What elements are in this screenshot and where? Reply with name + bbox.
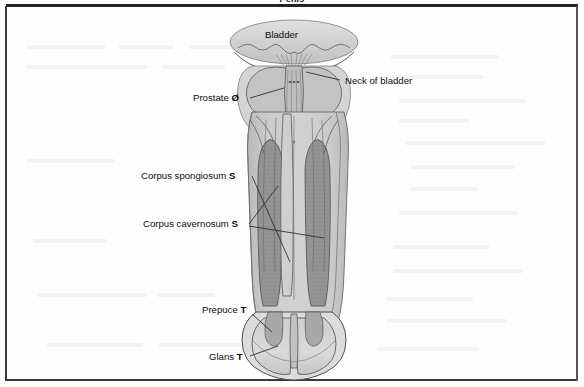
urethra-landmark (293, 140, 295, 143)
label-corpus-cavernosum-suffix: S (232, 218, 238, 229)
label-glans-suffix: T (237, 351, 243, 362)
label-bladder-text: Bladder (265, 29, 298, 40)
corpus-spongiosum (281, 114, 294, 296)
glans-group (242, 312, 346, 380)
label-neck-of-bladder: Neck of bladder (345, 76, 412, 86)
cavernosum-termination-left (265, 312, 283, 346)
label-prostate-text: Prostate (193, 92, 229, 103)
label-corpus-cavernosum: Corpus cavernosum S (143, 219, 238, 229)
cavernosum-termination-right (305, 312, 323, 346)
corpus-cavernosum-left (258, 139, 283, 306)
glans-midline-meatus (290, 314, 298, 368)
label-prepuce: Prepuce T (202, 305, 246, 315)
label-bladder: Bladder (265, 30, 298, 40)
label-corpus-cavernosum-text: Corpus cavernosum (143, 218, 229, 229)
penis-anatomy-illustration (0, 0, 584, 387)
label-glans: Glans T (209, 352, 243, 362)
label-glans-text: Glans (209, 351, 234, 362)
corpus-cavernosum-right (305, 139, 330, 306)
label-corpus-spongiosum-text: Corpus spongiosum (141, 170, 226, 181)
label-prostate-suffix: Ø (231, 92, 238, 103)
figure-title: Penis (0, 0, 584, 4)
figure-page: Penis (0, 0, 584, 387)
label-corpus-spongiosum-suffix: S (229, 170, 235, 181)
label-prepuce-suffix: T (240, 304, 246, 315)
bladder-body (230, 20, 358, 64)
shaft-group (248, 112, 349, 322)
label-prostate: Prostate Ø (193, 93, 239, 103)
verumontanum-marks (289, 81, 300, 83)
label-prepuce-text: Prepuce (202, 304, 238, 315)
label-neck-of-bladder-text: Neck of bladder (345, 75, 412, 86)
prostatic-urethra (285, 66, 304, 118)
label-corpus-spongiosum: Corpus spongiosum S (141, 171, 235, 181)
